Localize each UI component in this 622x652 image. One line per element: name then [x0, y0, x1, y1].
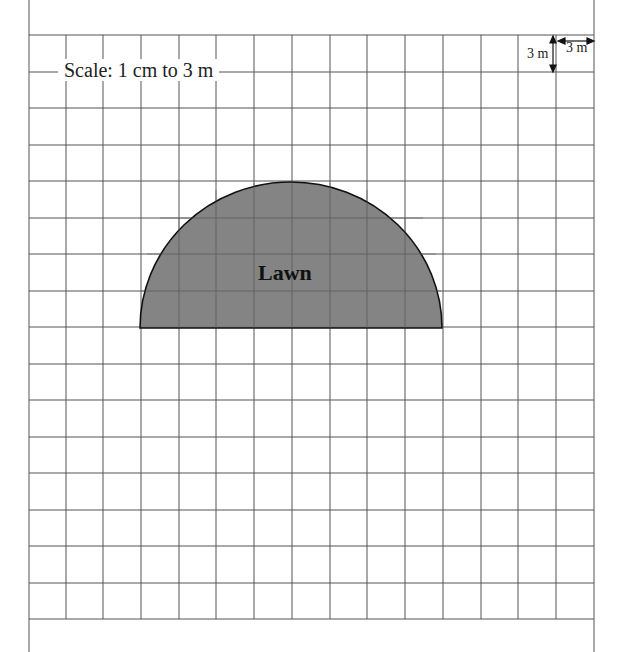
horizontal-dimension-label: 3 m — [566, 40, 587, 56]
grid-diagram — [0, 0, 622, 652]
vertical-dimension-label: 3 m — [527, 46, 548, 62]
lawn-label: Lawn — [258, 260, 312, 286]
scale-label: Scale: 1 cm to 3 m — [58, 59, 219, 81]
lawn-semicircle — [140, 182, 442, 328]
